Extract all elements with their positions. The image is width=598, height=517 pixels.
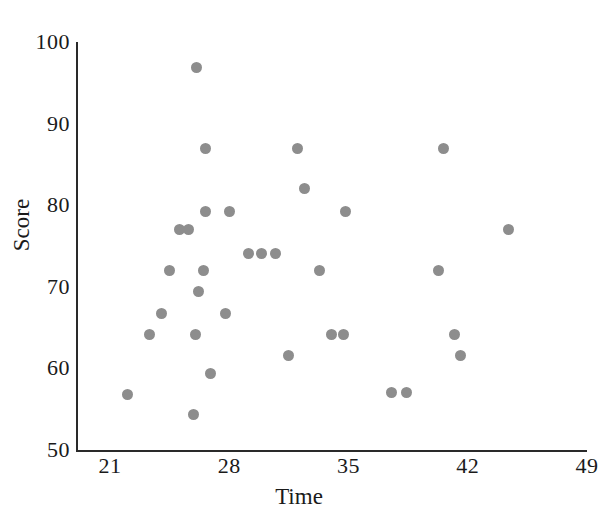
data-point bbox=[438, 143, 449, 154]
y-tick-label-50: 50 bbox=[24, 439, 70, 461]
plot-area bbox=[76, 42, 587, 450]
x-tick-label-35: 35 bbox=[319, 454, 379, 478]
data-point bbox=[292, 143, 303, 154]
x-tick-label-21: 21 bbox=[80, 454, 140, 478]
data-point bbox=[164, 265, 175, 276]
y-tick-label-90: 90 bbox=[24, 113, 70, 135]
data-point bbox=[220, 308, 231, 319]
data-point bbox=[338, 329, 349, 340]
data-point bbox=[191, 62, 202, 73]
data-point bbox=[433, 265, 444, 276]
y-tick-label-60: 60 bbox=[24, 357, 70, 379]
data-point bbox=[224, 206, 235, 217]
data-point bbox=[144, 329, 155, 340]
data-point bbox=[183, 224, 194, 235]
data-point bbox=[386, 387, 397, 398]
data-point bbox=[256, 248, 267, 259]
data-point bbox=[283, 350, 294, 361]
data-point bbox=[188, 409, 199, 420]
scatter-plot: 5060708090100 2128354249 Score Time bbox=[0, 0, 598, 517]
data-point bbox=[243, 248, 254, 259]
data-point bbox=[198, 265, 209, 276]
data-point bbox=[455, 350, 466, 361]
data-point bbox=[503, 224, 514, 235]
data-point bbox=[190, 329, 201, 340]
x-tick-label-42: 42 bbox=[438, 454, 498, 478]
y-axis-title: Score bbox=[9, 165, 35, 285]
data-point bbox=[314, 265, 325, 276]
x-axis-title: Time bbox=[0, 484, 598, 510]
data-point bbox=[401, 387, 412, 398]
data-point bbox=[193, 286, 204, 297]
x-tick-label-28: 28 bbox=[199, 454, 259, 478]
data-point bbox=[200, 206, 211, 217]
data-point bbox=[122, 389, 133, 400]
data-point bbox=[326, 329, 337, 340]
data-point bbox=[200, 143, 211, 154]
data-point bbox=[156, 308, 167, 319]
x-axis-line bbox=[76, 450, 587, 452]
data-point bbox=[449, 329, 460, 340]
y-tick-label-100: 100 bbox=[24, 31, 70, 53]
x-tick-label-49: 49 bbox=[557, 454, 598, 478]
data-point bbox=[205, 368, 216, 379]
data-point bbox=[299, 183, 310, 194]
data-point bbox=[270, 248, 281, 259]
data-point bbox=[340, 206, 351, 217]
